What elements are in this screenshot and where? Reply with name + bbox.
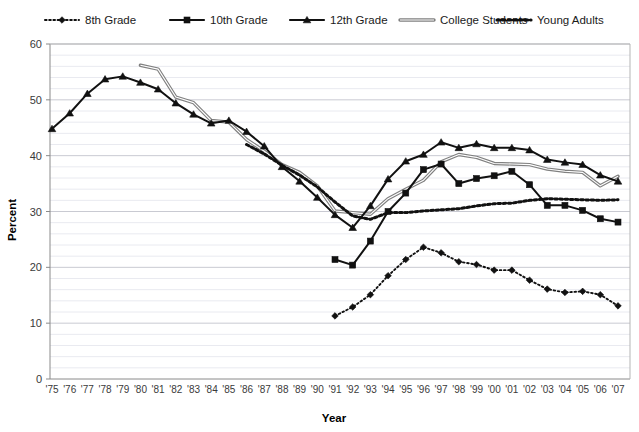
y-tick-label: 50 <box>30 94 42 106</box>
x-tick-label: '02 <box>523 384 536 395</box>
x-tick-label: '90 <box>311 384 324 395</box>
x-tick-label: '86 <box>240 384 253 395</box>
legend-label: 12th Grade <box>330 14 388 26</box>
x-tick-label: '76 <box>63 384 76 395</box>
legend-item-8th-grade[interactable]: 8th Grade <box>45 14 136 26</box>
data-point <box>350 262 356 268</box>
data-point <box>579 288 586 295</box>
data-point <box>385 209 391 215</box>
legend-item-10th-grade[interactable]: 10th Grade <box>170 14 268 26</box>
chart-legend: 8th Grade10th Grade12th GradeCollege Stu… <box>45 14 604 26</box>
data-point <box>420 167 426 173</box>
x-axis-tick-labels: '75'76'77'78'79'80'81'82'83'84'85'86'87'… <box>45 384 624 395</box>
x-tick-label: '92 <box>346 384 359 395</box>
x-tick-label: '99 <box>470 384 483 395</box>
chart-container: 8th Grade10th Grade12th GradeCollege Stu… <box>0 0 639 432</box>
data-point <box>615 219 621 225</box>
data-point <box>332 313 339 320</box>
data-point <box>527 182 533 188</box>
data-point <box>597 216 603 222</box>
y-tick-label: 60 <box>30 38 42 50</box>
x-tick-label: '07 <box>611 384 624 395</box>
y-tick-label: 0 <box>36 373 42 385</box>
x-tick-label: '06 <box>594 384 607 395</box>
data-point <box>509 168 515 174</box>
x-tick-label: '95 <box>399 384 412 395</box>
data-point <box>456 181 462 187</box>
series-10th-grade <box>332 161 621 268</box>
x-tick-label: '91 <box>328 384 341 395</box>
legend-marker-square-icon <box>184 17 190 23</box>
x-tick-label: '82 <box>169 384 182 395</box>
x-tick-label: '78 <box>99 384 112 395</box>
legend-label: Young Adults <box>537 14 604 26</box>
x-tick-label: '98 <box>452 384 465 395</box>
data-point <box>438 250 445 257</box>
y-axis-title: Percent <box>6 199 18 241</box>
data-point <box>403 190 409 196</box>
data-point <box>438 161 444 167</box>
series-8th-grade <box>332 244 622 319</box>
data-point <box>437 139 445 145</box>
x-tick-label: '85 <box>222 384 235 395</box>
legend-label: 10th Grade <box>210 14 268 26</box>
data-point <box>562 202 568 208</box>
data-point <box>474 176 480 182</box>
x-tick-label: '83 <box>187 384 200 395</box>
data-point <box>456 258 463 265</box>
x-tick-label: '79 <box>116 384 129 395</box>
x-tick-label: '80 <box>134 384 147 395</box>
x-tick-label: '00 <box>488 384 501 395</box>
x-tick-label: '81 <box>152 384 165 395</box>
data-point <box>491 173 497 179</box>
data-point <box>367 238 373 244</box>
x-tick-label: '88 <box>275 384 288 395</box>
legend-item-12th-grade[interactable]: 12th Grade <box>290 14 388 26</box>
data-point <box>580 207 586 213</box>
x-tick-label: '04 <box>558 384 571 395</box>
line-chart: 8th Grade10th Grade12th GradeCollege Stu… <box>0 0 639 432</box>
x-tick-label: '97 <box>435 384 448 395</box>
y-tick-label: 40 <box>30 150 42 162</box>
x-tick-label: '96 <box>417 384 430 395</box>
x-tick-label: '01 <box>505 384 518 395</box>
x-tick-label: '93 <box>364 384 377 395</box>
x-tick-label: '94 <box>382 384 395 395</box>
y-tick-label: 10 <box>30 317 42 329</box>
legend-label: 8th Grade <box>85 14 136 26</box>
y-tick-label: 30 <box>30 206 42 218</box>
y-tick-label: 20 <box>30 261 42 273</box>
x-tick-label: '89 <box>293 384 306 395</box>
data-point <box>544 286 551 293</box>
y-axis-tick-labels: 0102030405060 <box>30 38 42 385</box>
x-tick-label: '05 <box>576 384 589 395</box>
x-tick-label: '03 <box>541 384 554 395</box>
data-point <box>332 257 338 263</box>
data-point <box>544 202 550 208</box>
series-12th-grade <box>48 73 622 231</box>
x-axis-title: Year <box>322 412 347 424</box>
legend-marker-diamond-icon <box>59 17 66 24</box>
x-tick-label: '87 <box>258 384 271 395</box>
x-tick-label: '75 <box>45 384 58 395</box>
x-tick-label: '84 <box>205 384 218 395</box>
data-series-group <box>48 65 622 319</box>
x-tick-label: '77 <box>81 384 94 395</box>
